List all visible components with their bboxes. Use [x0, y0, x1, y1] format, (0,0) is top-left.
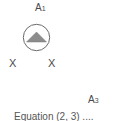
mark-x-right: X: [48, 58, 55, 68]
label-a3-main: A: [88, 94, 95, 105]
caption: Equation (2, 3) ....: [14, 112, 94, 121]
label-a1-main: A: [35, 2, 42, 13]
label-a1-subscript: 1: [42, 5, 46, 12]
label-a3-subscript: 3: [95, 97, 99, 104]
label-a1: A1: [35, 3, 46, 14]
mark-x-left: X: [9, 58, 16, 68]
label-a3: A3: [88, 95, 99, 106]
triangle-in-circle-icon: [22, 23, 51, 52]
